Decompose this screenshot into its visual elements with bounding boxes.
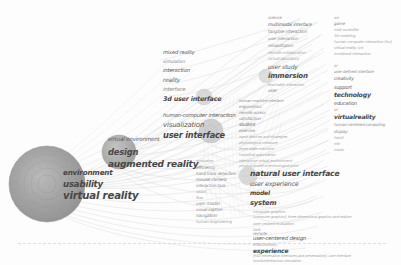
node-natural-user-interface[interactable] (239, 167, 257, 185)
node-augmented-reality[interactable] (102, 135, 136, 169)
node-user-interface[interactable] (199, 119, 223, 143)
node-immersion[interactable] (259, 69, 273, 83)
node-3d-user-interface[interactable] (196, 89, 212, 105)
baseline-divider (18, 243, 386, 244)
network-map-canvas: environmentusabilityvirtual realityvirtu… (0, 0, 401, 265)
node-layer (0, 0, 401, 265)
node-virtual-reality[interactable] (9, 146, 85, 222)
